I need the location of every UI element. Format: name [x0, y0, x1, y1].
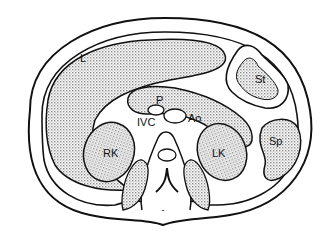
ivc [148, 105, 164, 115]
stomach-label: St [255, 73, 265, 85]
right-kidney-label: RK [103, 147, 119, 159]
ivc-label: IVC [137, 116, 155, 128]
liver-label: L [80, 52, 86, 64]
abdominal-cross-section-diagram: L St P IVC Ao RK LK Sp [0, 0, 326, 235]
pancreas-label: P [156, 94, 163, 106]
left-kidney-label: LK [212, 147, 226, 159]
spleen-label: Sp [269, 135, 282, 147]
aorta [164, 109, 186, 123]
spinal-canal [158, 149, 176, 161]
aorta-label: Ao [188, 112, 201, 124]
